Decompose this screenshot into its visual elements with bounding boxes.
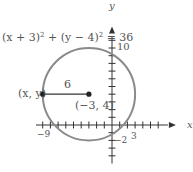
radius-label: 6 <box>64 78 71 91</box>
center-point <box>86 92 91 97</box>
axes <box>36 27 176 164</box>
center-label: (−3, 4) <box>75 99 114 112</box>
circle-diagram: (x + 3)2 + (y − 4)2 = 36 (x, y) 6 (−3, 4… <box>0 0 193 172</box>
point-label: (x, y) <box>18 87 46 100</box>
y-tick-label-neg2: −2 <box>114 135 127 145</box>
y-axis-label: y <box>108 0 115 11</box>
circle-equation: (x + 3)2 + (y − 4)2 = 36 <box>2 31 133 44</box>
y-tick-label-10: 10 <box>117 41 130 52</box>
x-tick-label-neg9: −9 <box>37 129 51 139</box>
x-axis-arrow-icon <box>169 122 176 128</box>
x-tick-label-3: 3 <box>131 131 137 141</box>
x-axis-label: x <box>187 119 193 130</box>
